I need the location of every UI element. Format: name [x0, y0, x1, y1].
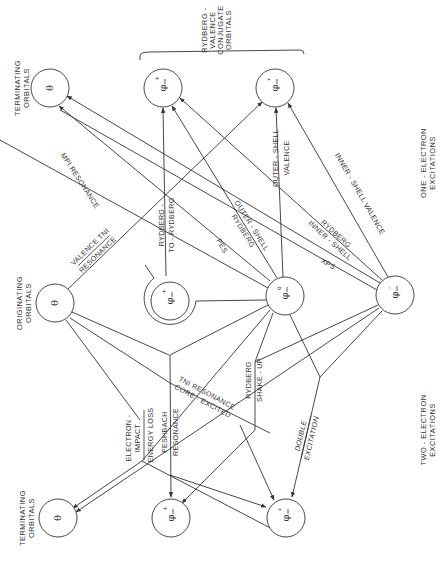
edge-phi0-down — [290, 315, 320, 377]
edge-phi-minus-to-double — [320, 311, 382, 377]
svg-text:θ: θ — [52, 515, 63, 521]
excitation-diagram: θ φ + φ * θ φ + φ o — [0, 0, 444, 582]
node-term-bottom-theta: θ — [39, 499, 77, 537]
edge-orig-theta-junction-b — [70, 318, 170, 383]
svg-text:TERMINATING: TERMINATING — [18, 490, 27, 546]
node-term-bottom-valence: φ * — [267, 499, 305, 537]
svg-text:φ: φ — [280, 514, 291, 521]
svg-text:VALENCE: VALENCE — [282, 140, 291, 175]
label-rydberg-to-rydberg: RYDBERG - TO - RYDBERG — [157, 197, 176, 252]
edge-loop-tail — [145, 265, 154, 278]
svg-text:EXCITATIONS: EXCITATIONS — [428, 136, 437, 190]
svg-text:ORIGINATING: ORIGINATING — [15, 276, 24, 330]
svg-text:RESONANCE: RESONANCE — [171, 408, 180, 456]
node-orig-theta: θ — [36, 284, 74, 322]
svg-text:IMPACT: IMPACT — [133, 423, 142, 452]
edge-shakeup-to-rydberg — [182, 430, 255, 503]
svg-text:+: + — [160, 289, 167, 294]
svg-text:θ: θ — [49, 300, 60, 306]
node-orig-phi0: φ o — [266, 277, 304, 315]
label-pes: PES — [215, 237, 230, 255]
label-inner-shell-valence: INNER - SHELL VALENCE — [333, 151, 387, 236]
svg-text:TO - RYDBERG: TO - RYDBERG — [167, 197, 176, 252]
svg-text:OUTER - SHELL: OUTER - SHELL — [271, 129, 280, 187]
svg-text:-: - — [385, 287, 392, 289]
header-two-electron: TWO - ELECTRON EXCITATIONS — [419, 394, 437, 465]
header-rydberg-valence-conjugate: RYDBERG - VALENCE CONJUGATE ORBITALS — [200, 5, 233, 55]
svg-text:φ: φ — [269, 84, 280, 91]
svg-text:ORBITALS: ORBITALS — [27, 498, 36, 538]
header-terminating-top: TERMINATING ORBITALS — [13, 60, 31, 116]
header-originating: ORIGINATING ORBITALS — [15, 276, 33, 330]
header-terminating-bottom: TERMINATING ORBITALS — [18, 490, 36, 546]
edge-to-bottom-valence — [170, 475, 266, 507]
svg-text:ORBITALS: ORBITALS — [24, 283, 33, 323]
svg-text:*: * — [277, 508, 284, 511]
svg-text:*: * — [266, 78, 273, 81]
svg-text:+: + — [161, 506, 168, 511]
svg-text:ORBITALS: ORBITALS — [224, 10, 233, 50]
svg-text:ORBITALS: ORBITALS — [22, 68, 31, 108]
svg-text:θ: θ — [44, 85, 55, 91]
svg-text:SHAKE - UP: SHAKE - UP — [255, 358, 264, 402]
svg-text:φ: φ — [165, 514, 176, 521]
edge-core-excited-to-valence — [240, 425, 274, 500]
label-double-excitation: DOUBLE EXCITATION — [291, 412, 321, 461]
svg-text:φ: φ — [279, 292, 290, 299]
node-term-top-theta: θ — [31, 69, 69, 107]
svg-text:EXCITATIONS: EXCITATIONS — [428, 403, 437, 457]
node-term-top-rydberg: φ + — [144, 69, 182, 107]
svg-text:RYDBERG -: RYDBERG - — [157, 203, 166, 246]
label-xps: XPS — [319, 256, 337, 271]
label-outer-shell-valence: OUTER - SHELL VALENCE — [271, 129, 291, 187]
label-valence-tni-resonance: VALENCE TNI RESONANCE — [69, 226, 119, 275]
edge-orig-theta-down — [66, 320, 140, 420]
edge-rydberg-to-rydberg — [163, 108, 166, 276]
edge-orig-theta-junction-a — [72, 312, 169, 355]
label-mpi-resonance: MPI RESONANCE — [59, 151, 102, 210]
svg-text:TWO - ELECTRON: TWO - ELECTRON — [419, 394, 428, 465]
svg-text:ONE - ELECTRON: ONE - ELECTRON — [419, 128, 428, 198]
svg-text:φ: φ — [164, 297, 175, 304]
svg-text:FESHBACH: FESHBACH — [160, 411, 169, 453]
svg-text:RYDBERG: RYDBERG — [244, 361, 253, 399]
svg-text:φ: φ — [157, 84, 168, 91]
node-term-top-valence: φ * — [256, 69, 294, 107]
node-orig-rydberg: φ + — [151, 282, 189, 320]
svg-text:φ: φ — [389, 291, 400, 298]
svg-text:TERMINATING: TERMINATING — [13, 60, 22, 116]
edge-phi-minus-to-shakeup — [255, 305, 378, 362]
svg-text:ENERGY LOSS: ENERGY LOSS — [146, 408, 155, 463]
edge-pes — [0, 140, 268, 288]
label-electron-impact: ELECTRON - IMPACT — [124, 414, 142, 461]
svg-text:ELECTRON -: ELECTRON - — [124, 414, 133, 461]
header-one-electron: ONE - ELECTRON EXCITATIONS — [419, 128, 437, 198]
edge-energy-loss-to-theta — [73, 461, 142, 508]
label-rydberg-shakeup: RYDBERG SHAKE - UP — [244, 358, 264, 402]
label-energy-loss: ENERGY LOSS — [144, 408, 155, 463]
node-term-bottom-rydberg: φ + — [152, 499, 190, 537]
svg-text:+: + — [153, 76, 160, 81]
node-orig-phi-minus: φ - — [376, 276, 414, 314]
svg-text:o: o — [275, 286, 282, 290]
